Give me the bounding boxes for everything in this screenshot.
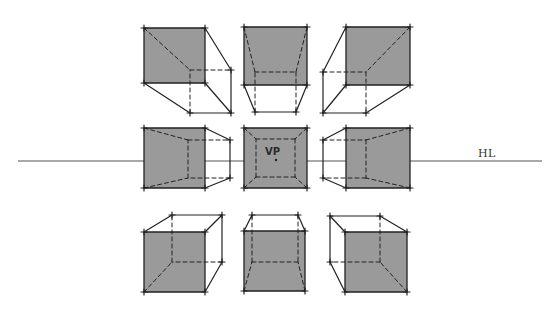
cube-top-left: [141, 25, 234, 116]
visible-edge: [366, 85, 410, 113]
cube-top-center: [241, 24, 310, 115]
visible-edges: [244, 215, 305, 231]
cube-middle-center: [241, 125, 310, 191]
visible-edge: [323, 85, 346, 113]
vanishing-point-marker: [275, 159, 277, 161]
cube-group: [141, 24, 413, 295]
front-face: [144, 128, 205, 188]
visible-edge: [244, 85, 255, 112]
front-face: [144, 28, 205, 83]
horizon-line-label: HL: [478, 147, 496, 160]
visible-edge: [144, 83, 190, 113]
visible-edge: [144, 215, 172, 232]
front-face: [244, 231, 305, 291]
visible-edge: [323, 27, 346, 72]
visible-edges: [323, 128, 346, 188]
visible-edge: [244, 215, 252, 231]
visible-edge: [298, 215, 305, 231]
vanishing-point-label: VP: [265, 146, 280, 157]
front-face: [346, 27, 410, 85]
front-face: [346, 128, 410, 188]
front-face: [144, 232, 205, 292]
visible-edge: [205, 262, 222, 292]
cube-middle-left: [141, 125, 233, 191]
front-face: [244, 128, 307, 188]
visible-edge: [323, 178, 346, 188]
visible-edge: [205, 83, 231, 113]
visible-edge: [330, 216, 345, 232]
cube-bottom-center: [241, 212, 308, 294]
front-face: [244, 27, 307, 85]
visible-edge: [205, 28, 231, 70]
visible-edge: [296, 85, 307, 112]
visible-edge: [380, 216, 407, 232]
visible-edge: [323, 128, 346, 140]
visible-edges: [205, 128, 230, 188]
visible-edge: [205, 178, 230, 188]
visible-edge: [205, 128, 230, 140]
visible-edge: [330, 262, 345, 292]
cube-middle-right: [320, 125, 413, 191]
visible-edge: [205, 215, 222, 232]
perspective-diagram: [0, 0, 558, 316]
visible-edges: [244, 85, 307, 112]
cube-bottom-right: [327, 213, 410, 295]
cube-top-right: [320, 24, 413, 116]
cube-bottom-left: [141, 212, 225, 295]
